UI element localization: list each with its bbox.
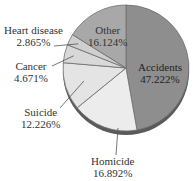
label-other-name: Other xyxy=(88,24,127,36)
label-cancer-name: Cancer xyxy=(14,60,48,72)
label-cancer: Cancer 4.671% xyxy=(14,60,48,84)
label-heart-disease-name: Heart disease xyxy=(4,24,63,36)
label-accidents-name: Accidents xyxy=(138,61,182,73)
label-suicide: Suicide 12.226% xyxy=(21,106,60,130)
label-suicide-value: 12.226% xyxy=(21,118,60,130)
label-homicide-name: Homicide xyxy=(91,155,134,167)
label-homicide: Homicide 16.892% xyxy=(91,155,134,179)
label-accidents: Accidents 47.222% xyxy=(138,61,182,85)
label-accidents-value: 47.222% xyxy=(138,73,182,85)
label-other: Other 16.124% xyxy=(88,24,127,48)
label-heart-disease: Heart disease 2.865% xyxy=(4,24,63,48)
label-other-value: 16.124% xyxy=(88,36,127,48)
label-heart-disease-value: 2.865% xyxy=(4,36,63,48)
label-suicide-name: Suicide xyxy=(21,106,60,118)
label-cancer-value: 4.671% xyxy=(14,72,48,84)
label-homicide-value: 16.892% xyxy=(91,167,134,179)
